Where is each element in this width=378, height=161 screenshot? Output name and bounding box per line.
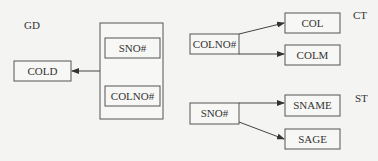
edge-ct-colno-to-col: [239, 23, 284, 34]
node-gd-cold: COLD: [14, 61, 71, 81]
node-st-sage: SAGE: [285, 129, 340, 149]
node-label: SNO#: [201, 107, 229, 119]
node-label: COLM: [297, 49, 329, 61]
composite-key-container: SNO# COLNO#: [100, 23, 163, 119]
node-ct-colno: COLNO#: [190, 34, 239, 54]
node-ct-colm: COLM: [285, 45, 340, 65]
node-label: COLD: [28, 65, 58, 77]
node-label: COLNO#: [111, 90, 155, 102]
group-label-gd: GD: [24, 19, 40, 31]
node-gd-colno: COLNO#: [105, 86, 160, 106]
node-gd-sno: SNO#: [105, 38, 160, 58]
node-label: SNO#: [119, 42, 147, 54]
node-ct-col: COL: [285, 13, 340, 33]
node-label: COL: [302, 17, 324, 29]
edge-st-sno-to-sage: [239, 122, 284, 139]
node-label: SNAME: [293, 99, 332, 111]
node-label: COLNO#: [193, 38, 237, 50]
group-label-st: ST: [355, 92, 368, 104]
functional-dependency-diagram: GD COLD SNO# COLNO# CT COLNO# COL COLM S…: [0, 0, 378, 161]
group-label-ct: CT: [353, 9, 367, 21]
node-label: SAGE: [298, 133, 327, 145]
node-st-sno: SNO#: [190, 103, 239, 124]
node-st-sname: SNAME: [285, 95, 340, 116]
